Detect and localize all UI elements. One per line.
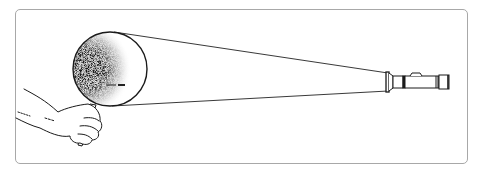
flashlight: [386, 72, 449, 92]
flashlight-head-rim: [386, 72, 389, 92]
flashlight-switch: [410, 73, 422, 76]
illustration: [0, 0, 483, 172]
light-beam: [112, 32, 388, 106]
